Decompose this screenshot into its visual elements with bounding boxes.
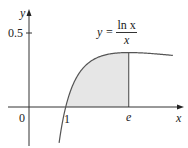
equation-label: y = ln x x — [97, 19, 137, 46]
x-tick-label-one: 1 — [64, 113, 70, 125]
equation-lhs: y = — [97, 25, 113, 40]
equation-numerator: ln x — [116, 19, 136, 33]
y-axis-label: y — [20, 7, 25, 19]
function-plot — [0, 0, 188, 148]
equation-denominator: x — [124, 33, 129, 46]
x-axis-arrow-icon — [177, 105, 184, 110]
x-axis-label: x — [176, 112, 181, 124]
y-axis-arrow-icon — [27, 9, 32, 16]
y-tick-label-half: 0.5 — [8, 27, 23, 39]
x-tick-label-e: e — [126, 111, 131, 123]
origin-label: 0 — [19, 112, 25, 124]
equation-fraction: ln x x — [116, 19, 136, 46]
